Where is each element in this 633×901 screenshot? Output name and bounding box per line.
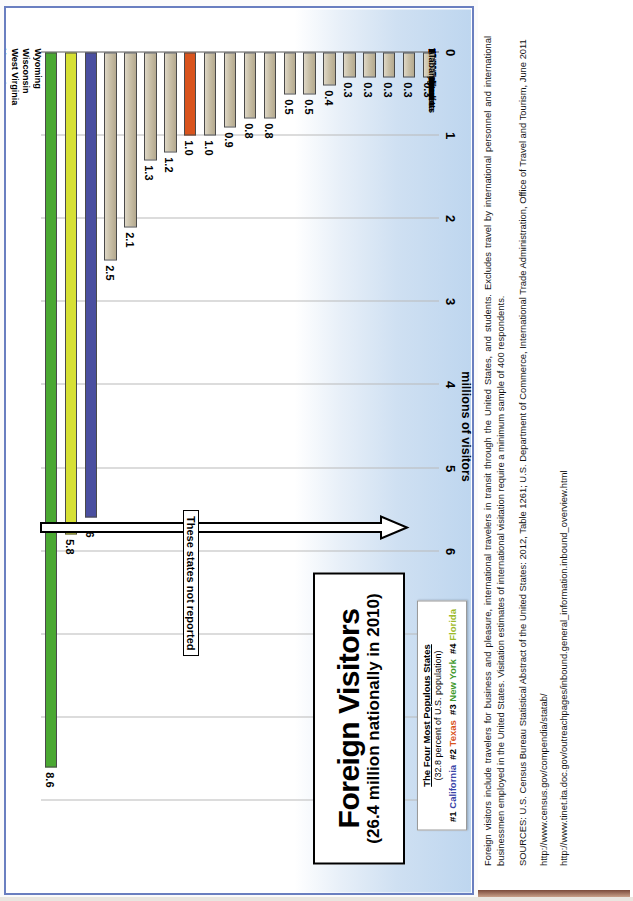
- legend-gap: [447, 759, 458, 764]
- notes-sources: SOURCES: U.S. Census Bureau Statistical …: [515, 36, 528, 866]
- legend-rank: #3: [447, 701, 458, 714]
- legend-rank: #2: [447, 746, 458, 759]
- page-root: Foreign Visitors (26.4 million nationall…: [0, 0, 633, 901]
- legend-rank: #4: [447, 640, 458, 653]
- not-reported-state: West Virginia: [10, 48, 20, 105]
- legend-entry-texas: #2 Texas: [447, 720, 458, 759]
- legend-state-name: New York: [447, 659, 458, 701]
- notes-rotated-stage: Foreign visitors include travelers for b…: [481, 36, 631, 866]
- legend-state-name: Texas: [447, 720, 458, 746]
- legend-entry-california: #1 California: [447, 764, 458, 821]
- legend-gap: [447, 653, 458, 658]
- chart-rotated-stage: Foreign Visitors (26.4 million nationall…: [7, 9, 471, 892]
- legend-state-name: California: [447, 764, 458, 808]
- not-reported-label: These states not reported: [183, 510, 199, 656]
- page-bottom-edge: [478, 890, 630, 897]
- legend-subheading: (32.8 percent of U.S. population): [433, 605, 445, 825]
- not-reported-arrow-icon: [35, 514, 413, 540]
- chart-legend: The Four Most Populous States (32.8 perc…: [417, 600, 467, 830]
- legend-state-name: Florida: [447, 609, 458, 641]
- legend-heading: The Four Most Populous States: [421, 605, 433, 825]
- notes-paragraph: Foreign visitors include travelers for b…: [481, 36, 508, 866]
- not-reported-state: Wisconsin: [21, 48, 31, 93]
- legend-entry-new-york: #3 New York: [447, 659, 458, 715]
- chart-panel: Foreign Visitors (26.4 million nationall…: [4, 6, 474, 895]
- legend-entry-florida: #4 Florida: [447, 609, 458, 654]
- page-title: Foreign Visitors: [334, 608, 365, 828]
- legend-gap: [447, 714, 458, 719]
- notes-url-census[interactable]: http://www.census.gov/compendia/statab/: [537, 36, 550, 866]
- notes-panel: Foreign visitors include travelers for b…: [478, 0, 633, 901]
- paper-edge: [0, 897, 633, 901]
- legend-entries: #1 California #2 Texas #3 New York #4 Fl…: [447, 605, 460, 825]
- chart-subtitle: (26.4 million nationally in 2010): [365, 593, 384, 843]
- notes-url-tinet[interactable]: http://www.tinet.ita.doc.gov/outreachpag…: [557, 36, 570, 866]
- chart-title-box: Foreign Visitors (26.4 million nationall…: [313, 572, 405, 864]
- not-reported-state: Wyoming: [33, 48, 43, 88]
- legend-rank: #1: [447, 808, 458, 821]
- not-reported-state: Vermont: [4, 48, 8, 84]
